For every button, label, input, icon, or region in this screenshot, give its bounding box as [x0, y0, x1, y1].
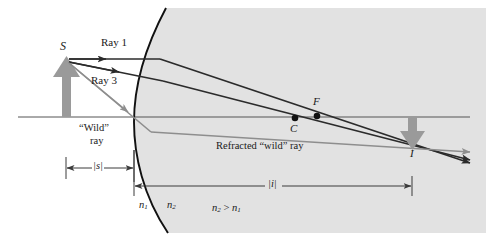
refracted-wild-ray-label: Refracted “wild” ray: [216, 141, 303, 152]
center-of-curvature-label: C: [290, 123, 297, 134]
inequality-right-subscript: 1: [237, 206, 241, 214]
medium-n1-label: n1: [139, 200, 148, 211]
object-distance-label: |s|: [93, 161, 103, 172]
ray1-label: Ray 1: [101, 37, 127, 48]
diagram-canvas: [0, 0, 503, 243]
wild-ray-label-line1: “Wild”: [79, 123, 109, 134]
inequality-sign: >: [223, 202, 229, 213]
inequality-left-subscript: 2: [217, 206, 221, 214]
medium-n2-subscript: 2: [172, 203, 176, 211]
focal-point-label: F: [313, 96, 320, 107]
ray3-label: Ray 3: [91, 75, 117, 86]
optics-ray-diagram: S Ray 1 Ray 3 “Wild” ray Refracted “wild…: [0, 0, 503, 243]
focal-point: [314, 113, 321, 120]
source-label: S: [60, 40, 66, 52]
center-of-curvature-point: [292, 115, 299, 122]
image-distance-label: |i|: [268, 179, 277, 190]
medium-n2-label: n2: [167, 200, 176, 211]
refractive-index-inequality: n2 > n1: [212, 203, 241, 214]
object-arrow: [53, 56, 80, 117]
image-point-label: I: [410, 148, 414, 159]
medium-n1-subscript: 1: [144, 203, 148, 211]
wild-ray-label-line2: ray: [90, 136, 103, 147]
medium-n2-shading: [134, 8, 486, 233]
